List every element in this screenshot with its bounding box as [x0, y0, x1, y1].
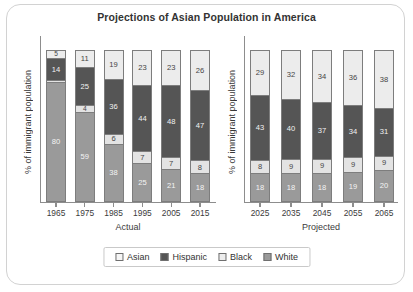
x-axis-tick — [281, 202, 301, 207]
bar-segment: 21 — [162, 169, 180, 201]
bar-segment: 18 — [282, 173, 300, 201]
bar-segment: 38 — [105, 144, 123, 201]
stacked-bar: 3634919 — [343, 50, 363, 202]
bar-column: 2943818 — [250, 36, 270, 202]
bar-segment: 34 — [313, 51, 331, 102]
bar-segment: 6 — [105, 134, 123, 144]
x-axis-tick-label: 1975 — [75, 208, 95, 220]
bar-group-actual: 5148011254591936638234472523487212647818 — [46, 36, 210, 202]
x-axis-tick — [161, 202, 181, 207]
legend-item-hispanic[interactable]: Hispanic — [160, 252, 207, 262]
bar-segment: 5 — [47, 51, 65, 58]
bar-segment: 40 — [282, 99, 300, 159]
x-axis-tick-label: 2025 — [250, 208, 270, 220]
x-axis-tick — [312, 202, 332, 207]
chart-panel-actual: % of immigrant population 51480112545919… — [26, 36, 216, 208]
bar-segment: 47 — [191, 90, 209, 161]
bar-segment: 20 — [375, 170, 393, 201]
stacked-bar: 2647818 — [190, 50, 210, 202]
bar-segment: 7 — [162, 157, 180, 168]
group-label-actual: Actual — [40, 222, 216, 232]
x-axis-tick — [104, 202, 124, 207]
bar-segment: 9 — [344, 157, 362, 172]
x-axis-tick — [132, 202, 152, 207]
bar-segment: 37 — [313, 102, 331, 159]
bar-segment: 19 — [105, 51, 123, 79]
bar-column: 2344725 — [132, 36, 152, 202]
bar-segment: 18 — [313, 173, 331, 201]
bar-column: 2348721 — [161, 36, 181, 202]
bar-segment: 8 — [251, 160, 269, 173]
bar-segment: 8 — [191, 160, 209, 173]
stacked-bar: 3831920 — [374, 50, 394, 202]
bar-segment: 25 — [76, 67, 94, 105]
bar-column: 2647818 — [190, 36, 210, 202]
bar-segment: 9 — [282, 159, 300, 173]
stacked-bar: 1125459 — [75, 50, 95, 202]
bar-segment: 59 — [76, 112, 94, 201]
stacked-bar: 2348721 — [161, 50, 181, 202]
bar-segment: 36 — [105, 79, 123, 133]
bar-segment: 23 — [162, 51, 180, 85]
bar-segment: 14 — [47, 58, 65, 80]
bar-segment: 25 — [133, 163, 151, 201]
stacked-bar: 51480 — [46, 50, 66, 202]
bar-segment: 9 — [313, 159, 331, 174]
bar-segment: 26 — [191, 51, 209, 90]
bar-segment: 7 — [133, 151, 151, 162]
legend-label: Black — [230, 252, 252, 262]
legend-label: Asian — [127, 252, 150, 262]
legend-item-asian[interactable]: Asian — [115, 252, 150, 262]
stacked-bar: 3240918 — [281, 50, 301, 202]
x-axis-tick — [250, 202, 270, 207]
stacked-bar: 2943818 — [250, 50, 270, 202]
x-tick-labels-actual: 196519751985199520052015 — [46, 208, 210, 220]
bar-segment: 43 — [251, 95, 269, 161]
bar-segment: 44 — [133, 85, 151, 151]
x-tick-labels-projected: 20252035204520552065 — [250, 208, 394, 220]
x-axis-tick-label: 2035 — [281, 208, 301, 220]
x-axis-tick — [374, 202, 394, 207]
bar-segment: 36 — [344, 51, 362, 105]
bar-column: 3437918 — [312, 36, 332, 202]
chart-legend: AsianHispanicBlackWhite — [103, 247, 310, 267]
x-axis-tick-label: 2005 — [161, 208, 181, 220]
bar-segment: 4 — [76, 105, 94, 112]
legend-swatch-icon — [115, 253, 123, 261]
group-label-projected: Projected — [244, 222, 398, 232]
x-axis-tick-label: 2055 — [343, 208, 363, 220]
legend-label: White — [275, 252, 298, 262]
bar-segment: 80 — [47, 82, 65, 201]
x-axis-tick — [190, 202, 210, 207]
bar-segment: 11 — [76, 51, 94, 67]
x-axis-tick-label: 1995 — [132, 208, 152, 220]
y-axis-label-projected: % of immigrant population — [224, 36, 240, 208]
bar-column: 3831920 — [374, 36, 394, 202]
bar-segment: 23 — [133, 51, 151, 85]
legend-swatch-icon — [263, 253, 271, 261]
bar-column: 3240918 — [281, 36, 301, 202]
legend-swatch-icon — [218, 253, 226, 261]
legend-item-black[interactable]: Black — [218, 252, 252, 262]
stacked-bar: 3437918 — [312, 50, 332, 202]
legend-item-white[interactable]: White — [263, 252, 298, 262]
bar-column: 1125459 — [75, 36, 95, 202]
legend-label: Hispanic — [172, 252, 207, 262]
x-tick-group-actual — [46, 202, 210, 207]
bar-group-projected: 29438183240918343791836349193831920 — [250, 36, 394, 202]
x-axis-tick-label: 2065 — [374, 208, 394, 220]
chart-title: Projections of Asian Population in Ameri… — [0, 11, 413, 23]
chart-figure: Projections of Asian Population in Ameri… — [0, 0, 413, 292]
bar-segment: 48 — [162, 85, 180, 157]
bar-column: 3634919 — [343, 36, 363, 202]
bar-column: 51480 — [46, 36, 66, 202]
x-axis-tick — [46, 202, 66, 207]
x-axis-tick-label: 1985 — [104, 208, 124, 220]
bar-column: 1936638 — [104, 36, 124, 202]
bar-segment: 18 — [251, 173, 269, 201]
legend-swatch-icon — [160, 253, 168, 261]
x-tick-group-projected — [250, 202, 394, 207]
y-axis-label-actual: % of immigrant population — [20, 36, 36, 208]
stacked-bar: 1936638 — [104, 50, 124, 202]
bar-segment: 34 — [344, 105, 362, 157]
